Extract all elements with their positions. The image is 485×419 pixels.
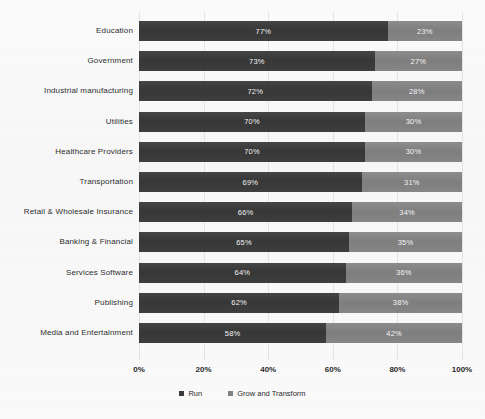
category-label: Education — [3, 26, 133, 35]
bar-value-label: 31% — [404, 178, 420, 187]
legend-item[interactable]: Run — [179, 389, 202, 398]
legend-swatch-icon — [179, 391, 184, 396]
bar-value-label: 42% — [386, 329, 402, 338]
bar-segment-grow-and-transform[interactable]: 42% — [326, 323, 462, 343]
bar-value-label: 64% — [235, 268, 251, 277]
bar-segment-grow-and-transform[interactable]: 30% — [365, 112, 462, 132]
bar-row[interactable]: 70%30% — [139, 112, 462, 132]
bar-segment-run[interactable]: 69% — [139, 172, 362, 192]
bar-segment-grow-and-transform[interactable]: 38% — [339, 293, 462, 313]
legend-swatch-icon — [228, 391, 233, 396]
bar-value-label: 38% — [393, 298, 409, 307]
bar-track: 65%35% — [139, 232, 462, 252]
bar-segment-run[interactable]: 58% — [139, 323, 326, 343]
bar-segment-run[interactable]: 72% — [139, 81, 372, 101]
plot-area: 77%23%73%27%72%28%70%30%70%30%69%31%66%3… — [139, 12, 462, 360]
bar-segment-grow-and-transform[interactable]: 35% — [349, 232, 462, 252]
bar-segment-grow-and-transform[interactable]: 31% — [362, 172, 462, 192]
bar-value-label: 65% — [236, 238, 252, 247]
category-label: Healthcare Providers — [3, 147, 133, 156]
x-axis-tick-label: 100% — [452, 365, 472, 374]
category-label: Retail & Wholesale Insurance — [3, 207, 133, 216]
bar-value-label: 70% — [244, 147, 260, 156]
bar-segment-grow-and-transform[interactable]: 23% — [388, 21, 462, 41]
bar-row[interactable]: 65%35% — [139, 232, 462, 252]
bar-segment-grow-and-transform[interactable]: 36% — [346, 263, 462, 283]
x-axis: 0%20%40%60%80%100% — [139, 365, 462, 379]
bar-row[interactable]: 72%28% — [139, 81, 462, 101]
bar-track: 70%30% — [139, 142, 462, 162]
x-axis-tick-label: 40% — [260, 365, 276, 374]
bar-value-label: 69% — [243, 178, 259, 187]
bar-value-label: 27% — [411, 57, 427, 66]
bar-value-label: 35% — [398, 238, 414, 247]
category-label: Services Software — [3, 268, 133, 277]
bar-segment-run[interactable]: 77% — [139, 21, 388, 41]
bar-segment-run[interactable]: 70% — [139, 142, 365, 162]
chart-legend: RunGrow and Transform — [0, 389, 485, 398]
bar-track: 70%30% — [139, 112, 462, 132]
category-label: Banking & Financial — [3, 237, 133, 246]
bar-segment-run[interactable]: 64% — [139, 263, 346, 283]
legend-label: Grow and Transform — [237, 389, 305, 398]
bar-value-label: 28% — [409, 87, 425, 96]
category-label: Utilities — [3, 117, 133, 126]
bar-row[interactable]: 77%23% — [139, 21, 462, 41]
bar-row[interactable]: 58%42% — [139, 323, 462, 343]
x-axis-tick-label: 80% — [389, 365, 405, 374]
bar-value-label: 23% — [417, 27, 433, 36]
bar-value-label: 36% — [396, 268, 412, 277]
bar-segment-run[interactable]: 66% — [139, 202, 352, 222]
bar-segment-grow-and-transform[interactable]: 30% — [365, 142, 462, 162]
bar-segment-grow-and-transform[interactable]: 27% — [375, 51, 462, 71]
bar-track: 58%42% — [139, 323, 462, 343]
bar-row[interactable]: 69%31% — [139, 172, 462, 192]
bar-row[interactable]: 73%27% — [139, 51, 462, 71]
x-axis-tick-label: 60% — [325, 365, 341, 374]
category-label: Industrial manufacturing — [3, 86, 133, 95]
bar-value-label: 62% — [231, 298, 247, 307]
bar-track: 72%28% — [139, 81, 462, 101]
bar-value-label: 30% — [406, 117, 422, 126]
bar-value-label: 34% — [399, 208, 415, 217]
category-label: Publishing — [3, 298, 133, 307]
bar-value-label: 30% — [406, 147, 422, 156]
category-label: Government — [3, 56, 133, 65]
bar-segment-run[interactable]: 73% — [139, 51, 375, 71]
bar-segment-grow-and-transform[interactable]: 28% — [372, 81, 462, 101]
bar-value-label: 72% — [247, 87, 263, 96]
stacked-bar-chart: 77%23%73%27%72%28%70%30%70%30%69%31%66%3… — [0, 0, 485, 419]
bar-row[interactable]: 62%38% — [139, 293, 462, 313]
bar-value-label: 77% — [256, 27, 272, 36]
bar-row[interactable]: 64%36% — [139, 263, 462, 283]
bar-value-label: 73% — [249, 57, 265, 66]
category-label: Media and Entertainment — [3, 328, 133, 337]
bar-segment-run[interactable]: 65% — [139, 232, 349, 252]
bar-track: 69%31% — [139, 172, 462, 192]
category-label: Transportation — [3, 177, 133, 186]
bar-track: 77%23% — [139, 21, 462, 41]
bar-row[interactable]: 70%30% — [139, 142, 462, 162]
bar-segment-grow-and-transform[interactable]: 34% — [352, 202, 462, 222]
bar-value-label: 58% — [225, 329, 241, 338]
bar-segment-run[interactable]: 70% — [139, 112, 365, 132]
bar-track: 66%34% — [139, 202, 462, 222]
gridline — [462, 12, 463, 360]
bar-value-label: 66% — [238, 208, 254, 217]
bar-segment-run[interactable]: 62% — [139, 293, 339, 313]
legend-item[interactable]: Grow and Transform — [228, 389, 305, 398]
bar-value-label: 70% — [244, 117, 260, 126]
bar-track: 64%36% — [139, 263, 462, 283]
bar-track: 73%27% — [139, 51, 462, 71]
legend-label: Run — [188, 389, 202, 398]
x-axis-tick-label: 20% — [196, 365, 212, 374]
bar-row[interactable]: 66%34% — [139, 202, 462, 222]
x-axis-tick-label: 0% — [133, 365, 145, 374]
bar-track: 62%38% — [139, 293, 462, 313]
